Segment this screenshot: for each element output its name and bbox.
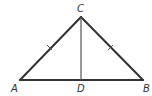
segment-cb [81,17,143,80]
label-d: D [77,83,85,94]
triangle-diagram: C A D B [0,0,152,96]
label-b: B [143,83,150,94]
label-c: C [77,3,84,14]
label-a: A [10,83,18,94]
